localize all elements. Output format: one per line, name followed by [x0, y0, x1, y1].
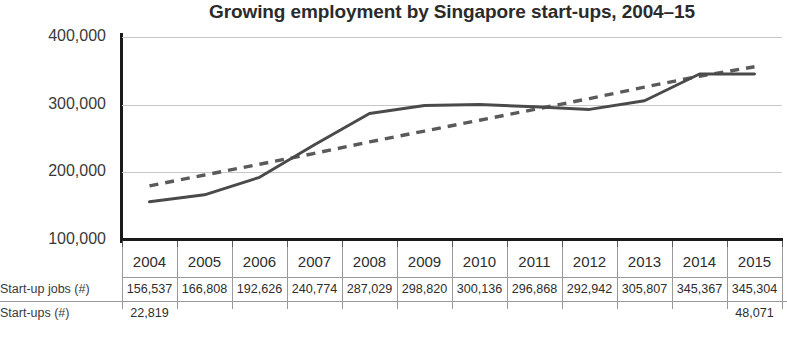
- table-separator: [122, 278, 123, 302]
- table-row-years: 2004200520062007200820092010201120122013…: [0, 247, 787, 278]
- table-cell: 2011: [507, 253, 562, 270]
- table-separator: [177, 302, 178, 309]
- table-row-label: Start-ups (#): [0, 306, 116, 320]
- table-separator: [177, 278, 178, 302]
- table-separator: [287, 278, 288, 302]
- table-cell: 2007: [287, 253, 342, 270]
- table-cell: 166,808: [177, 282, 232, 296]
- table-cell: 2008: [342, 253, 397, 270]
- table-cell: 345,304: [727, 282, 782, 296]
- table-separator: [342, 247, 343, 278]
- table-cell: 156,537: [122, 282, 177, 296]
- y-axis-tick-label: 300,000: [6, 95, 106, 113]
- table-cell: 296,868: [507, 282, 562, 296]
- table-cell: 298,820: [397, 282, 452, 296]
- table-separator: [727, 278, 728, 302]
- table-cell: 2006: [232, 253, 287, 270]
- table-row-label: Start-up jobs (#): [0, 282, 116, 296]
- table-separator: [232, 247, 233, 278]
- trendline-dashed: [150, 67, 755, 186]
- table-separator: [452, 247, 453, 278]
- y-axis-tick-label: 400,000: [6, 27, 106, 45]
- table-separator: [562, 302, 563, 309]
- table-separator: [672, 302, 673, 309]
- table-cell: 300,136: [452, 282, 507, 296]
- table-cell: 240,774: [287, 282, 342, 296]
- data-table: 2004200520062007200820092010201120122013…: [0, 247, 787, 326]
- table-separator: [232, 302, 233, 309]
- table-cell: 2013: [617, 253, 672, 270]
- table-separator: [782, 278, 783, 302]
- table-cell: 287,029: [342, 282, 397, 296]
- table-separator: [672, 278, 673, 302]
- table-row: Start-up jobs (#)156,537166,808192,62624…: [0, 278, 787, 302]
- table-separator: [727, 302, 728, 309]
- table-cell: 192,626: [232, 282, 287, 296]
- table-separator: [617, 278, 618, 302]
- table-separator: [727, 247, 728, 278]
- table-cell: 2005: [177, 253, 232, 270]
- table-separator: [122, 247, 123, 278]
- chart-page: Growing employment by Singapore start-up…: [0, 0, 787, 338]
- page-title: Growing employment by Singapore start-up…: [122, 1, 782, 23]
- table-separator: [672, 247, 673, 278]
- table-separator: [452, 302, 453, 309]
- table-separator: [452, 278, 453, 302]
- table-separator: [617, 302, 618, 309]
- table-cell: 48,071: [727, 306, 782, 320]
- table-separator: [562, 278, 563, 302]
- table-separator: [617, 247, 618, 278]
- y-axis-tick-label: 200,000: [6, 162, 106, 180]
- table-cell: 305,807: [617, 282, 672, 296]
- table-cell: 22,819: [122, 306, 177, 320]
- table-separator: [397, 247, 398, 278]
- table-separator: [342, 302, 343, 309]
- table-cell: 345,367: [672, 282, 727, 296]
- table-separator: [287, 302, 288, 309]
- table-cell: 2004: [122, 253, 177, 270]
- table-separator: [397, 302, 398, 309]
- table-separator: [397, 278, 398, 302]
- table-separator: [177, 247, 178, 278]
- table-cell: 2015: [727, 253, 782, 270]
- table-separator: [507, 247, 508, 278]
- y-axis-tick-label: 100,000: [6, 230, 106, 248]
- table-separator: [232, 278, 233, 302]
- table-cell: 2010: [452, 253, 507, 270]
- table-cell: 2009: [397, 253, 452, 270]
- table-separator: [507, 302, 508, 309]
- table-separator: [782, 302, 783, 309]
- table-separator: [287, 247, 288, 278]
- table-cell: 2012: [562, 253, 617, 270]
- table-separator: [342, 278, 343, 302]
- table-separator: [122, 302, 123, 309]
- table-row: Start-ups (#)22,81948,071: [0, 302, 787, 326]
- data-series-plot: [122, 37, 782, 240]
- startup-jobs-line: [150, 74, 755, 202]
- table-separator: [782, 247, 783, 278]
- table-cell: 292,942: [562, 282, 617, 296]
- table-separator: [562, 247, 563, 278]
- table-cell: 2014: [672, 253, 727, 270]
- table-separator: [507, 278, 508, 302]
